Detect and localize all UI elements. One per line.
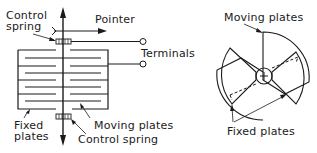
fixed-plates-label: Fixed plates (227, 126, 295, 137)
terminal-top-icon (140, 39, 146, 45)
pointer-label: Pointer (95, 14, 135, 25)
fixed-plates-label-line2: plates (14, 131, 49, 142)
moving-plates-label: Moving plates (94, 120, 173, 131)
control-spring-top-label-line2: spring (6, 21, 41, 32)
terminals-label: Terminals (141, 48, 195, 59)
fixed-plate-right-outline (272, 52, 304, 104)
spindle-bottom-arrow-icon (60, 135, 66, 146)
fixed-plate-left-outline (221, 48, 256, 104)
moving-plates-label: Moving plates (224, 12, 303, 23)
moving-plate-outline (263, 32, 309, 94)
control-spring-bottom-label: Control spring (78, 134, 158, 145)
electrostatic-voltmeter-top-view: Moving plates Fixed plates (200, 0, 317, 153)
terminal-bottom-icon (140, 61, 146, 67)
spindle-top-arrow-icon (60, 7, 66, 18)
electrostatic-voltmeter-side-view: Control spring Pointer Terminals Fixed p… (0, 0, 200, 153)
pointer-head-icon (98, 28, 107, 34)
